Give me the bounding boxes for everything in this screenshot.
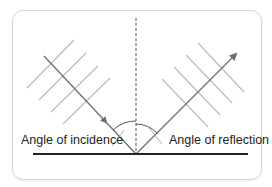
incident-ray (44, 56, 105, 121)
reflected-wavefronts (162, 43, 244, 127)
reflection-angle-arc (136, 124, 157, 133)
angle-of-reflection-label: Angle of reflection (169, 134, 269, 147)
reflection-diagram (0, 0, 272, 187)
angle-of-incidence-label: Angle of incidence (21, 134, 123, 147)
incidence-angle-arc (113, 121, 136, 130)
